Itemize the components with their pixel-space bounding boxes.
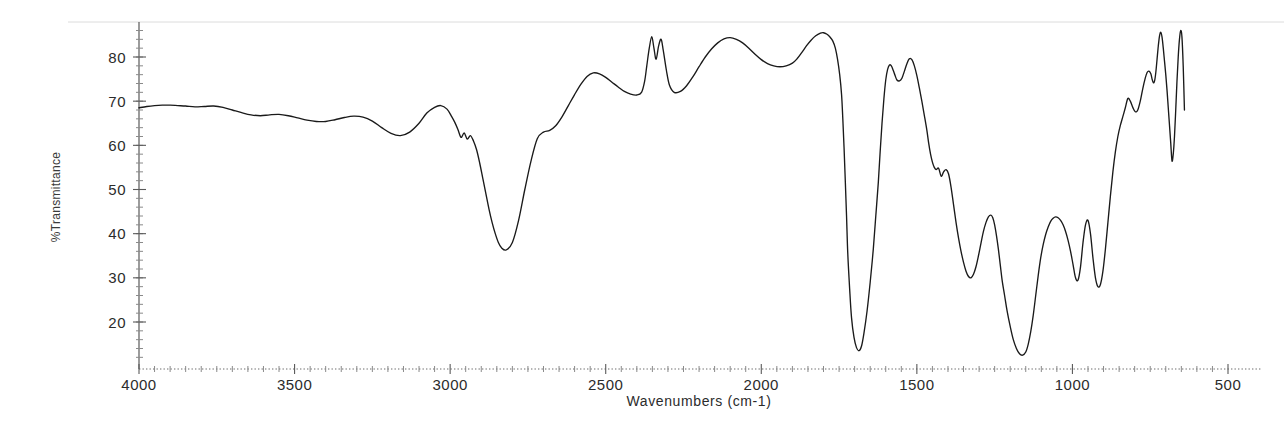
x-tick-label: 4000 (121, 376, 156, 393)
x-tick-label: 1500 (899, 376, 934, 393)
transmittance-trace (139, 30, 1184, 355)
y-tick-label: 60 (108, 137, 126, 154)
x-axis-group: 4000350030002500200015001000500 (121, 364, 1262, 393)
y-tick-label: 40 (108, 225, 126, 242)
y-axis-title: %Transmittance (49, 152, 63, 242)
x-axis-title: Wavenumbers (cm-1) (627, 393, 772, 409)
x-tick-label: 2500 (588, 376, 623, 393)
x-tick-label: 2000 (744, 376, 779, 393)
y-tick-label: 30 (108, 269, 126, 286)
x-tick-label: 1000 (1055, 376, 1090, 393)
x-tick-label: 3500 (277, 376, 312, 393)
spectrum-plot-svg: 80706050403020 4000350030002500200015001… (0, 0, 1284, 426)
ir-spectrum-figure: 80706050403020 4000350030002500200015001… (0, 0, 1284, 426)
y-tick-label: 50 (108, 181, 126, 198)
x-axis-tick-labels: 4000350030002500200015001000500 (121, 376, 1241, 393)
y-axis-tick-labels: 80706050403020 (108, 49, 126, 331)
y-tick-label: 80 (108, 49, 126, 66)
y-axis-group: 80706050403020 (108, 22, 146, 369)
x-tick-label: 500 (1215, 376, 1242, 393)
x-tick-label: 3000 (432, 376, 467, 393)
y-tick-label: 20 (108, 314, 126, 331)
y-tick-label: 70 (108, 93, 126, 110)
